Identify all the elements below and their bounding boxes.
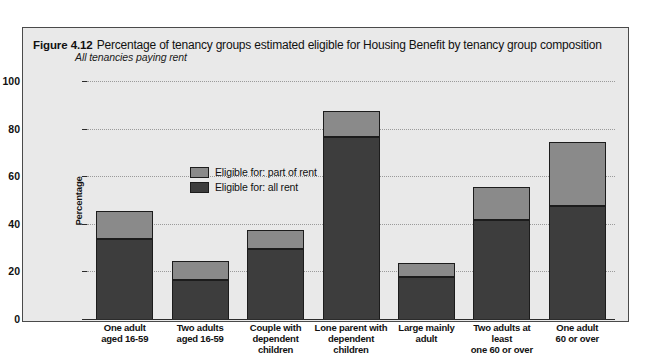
legend-label-part-of-rent: Eligible for: part of rent xyxy=(215,166,317,178)
page-title: Percentage of tenancy groups estimated e… xyxy=(97,38,602,52)
x-axis-label-line: aged 16-59 xyxy=(87,333,162,344)
y-tick-label-0: 0 xyxy=(0,313,20,325)
y-tick-mark-40 xyxy=(82,224,87,225)
x-axis-label-line: Two adults xyxy=(162,322,237,333)
x-axis-label-line: aged 16-59 xyxy=(162,333,237,344)
legend-swatch-part-of-rent xyxy=(190,167,209,178)
bar-group[interactable] xyxy=(473,187,530,320)
bar-group[interactable] xyxy=(172,261,229,321)
y-tick-mark-100 xyxy=(82,81,87,82)
x-axis-label-line: Couple with xyxy=(238,322,313,333)
bar-segment-part-of-rent[interactable] xyxy=(323,111,380,137)
x-axis-label-2: Couple withdependent children xyxy=(238,322,313,355)
y-tick-label-100: 100 xyxy=(0,75,20,87)
figure-subtitle: All tenancies paying rent xyxy=(75,51,187,63)
bar-segment-part-of-rent[interactable] xyxy=(398,263,455,277)
bar-group[interactable] xyxy=(323,111,380,320)
bar-group[interactable] xyxy=(96,211,153,320)
x-axis-label-0: One adultaged 16-59 xyxy=(87,322,162,344)
legend-swatch-all-rent xyxy=(190,182,209,193)
bar-segment-all-rent[interactable] xyxy=(96,239,153,320)
y-axis-label: Percentage xyxy=(73,176,84,225)
x-axis-category-labels: One adultaged 16-59Two adultsaged 16-59C… xyxy=(87,322,615,352)
y-tick-mark-20 xyxy=(82,271,87,272)
legend-label-all-rent: Eligible for: all rent xyxy=(215,181,298,193)
x-axis-label-5: Two adults at leastone 60 or over xyxy=(464,322,539,355)
y-tick-label-40: 40 xyxy=(0,218,20,230)
x-axis-label-line: One adult xyxy=(540,322,615,333)
x-axis-label-6: One adult60 or over xyxy=(540,322,615,344)
x-axis-label-line: Lone parent with xyxy=(313,322,388,333)
bar-segment-all-rent[interactable] xyxy=(398,277,455,320)
y-tick-mark-60 xyxy=(82,176,87,177)
bar-segment-all-rent[interactable] xyxy=(247,249,304,320)
chart-legend: Eligible for: part of rent Eligible for:… xyxy=(190,166,317,196)
bar-group[interactable] xyxy=(549,142,606,321)
x-axis-label-line: one 60 or over xyxy=(464,344,539,355)
y-tick-label-60: 60 xyxy=(0,170,20,182)
bar-segment-part-of-rent[interactable] xyxy=(247,230,304,249)
x-axis-label-line: dependent children xyxy=(313,333,388,355)
x-axis-label-3: Lone parent withdependent children xyxy=(313,322,388,355)
bar-segment-part-of-rent[interactable] xyxy=(96,211,153,240)
gridline-100 xyxy=(87,81,615,82)
bar-segment-all-rent[interactable] xyxy=(549,206,606,320)
x-axis-label-line: adult xyxy=(389,333,464,344)
chart-plot-area: Percentage 020406080100 Eligible for: pa… xyxy=(87,81,615,320)
x-axis-label-4: Large mainlyadult xyxy=(389,322,464,344)
x-axis-label-line: 60 or over xyxy=(540,333,615,344)
x-axis-label-line: Large mainly xyxy=(389,322,464,333)
y-tick-label-80: 80 xyxy=(0,123,20,135)
y-tick-mark-80 xyxy=(82,129,87,130)
bar-group[interactable] xyxy=(398,263,455,320)
x-axis-label-line: Two adults at least xyxy=(464,322,539,344)
figure-number: Figure 4.12 xyxy=(33,39,93,51)
bar-segment-part-of-rent[interactable] xyxy=(549,142,606,206)
bar-segment-all-rent[interactable] xyxy=(323,137,380,320)
x-axis-label-1: Two adultsaged 16-59 xyxy=(162,322,237,344)
figure-panel: Figure 4.12Percentage of tenancy groups … xyxy=(22,27,629,322)
bar-segment-all-rent[interactable] xyxy=(473,220,530,320)
bar-group[interactable] xyxy=(247,230,304,320)
legend-item-part: Eligible for: part of rent xyxy=(190,166,317,178)
bar-segment-all-rent[interactable] xyxy=(172,280,229,320)
y-tick-label-20: 20 xyxy=(0,265,20,277)
bar-segment-part-of-rent[interactable] xyxy=(473,187,530,220)
x-axis-label-line: dependent children xyxy=(238,333,313,355)
x-axis-label-line: One adult xyxy=(87,322,162,333)
legend-item-all: Eligible for: all rent xyxy=(190,181,317,193)
x-axis-line xyxy=(85,319,615,320)
bar-segment-part-of-rent[interactable] xyxy=(172,261,229,280)
